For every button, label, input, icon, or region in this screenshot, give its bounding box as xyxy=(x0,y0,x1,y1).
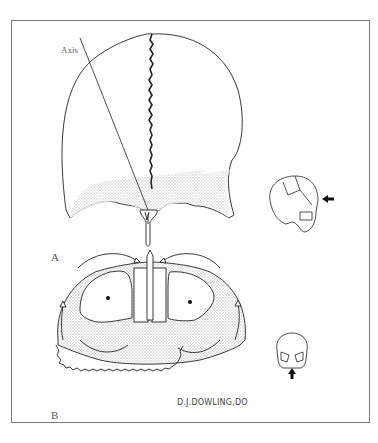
frontal-skull-icon xyxy=(277,333,308,368)
axis-label: Axis xyxy=(61,45,78,55)
panel-b-label: B xyxy=(51,409,58,421)
lateral-skull-icon xyxy=(270,176,318,232)
arrow-left-icon xyxy=(322,195,334,203)
anatomical-illustration xyxy=(0,0,378,443)
artist-signature: D.J.DOWLING,DO xyxy=(177,398,248,407)
arrow-up-icon xyxy=(288,368,296,379)
panel-a-label: A xyxy=(51,251,59,263)
panel-b-facial-skeleton xyxy=(56,250,245,371)
panel-a-skull-vault xyxy=(62,34,242,246)
